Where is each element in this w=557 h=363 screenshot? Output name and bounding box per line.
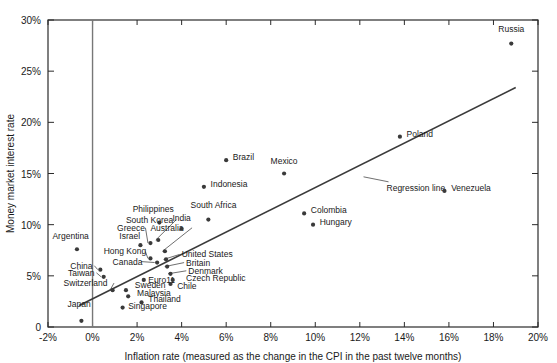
point-label-indonesia: Indonesia	[211, 179, 248, 189]
scatter-chart: -2%0%2%4%6%8%10%12%14%16%18%20%05%10%15%…	[0, 0, 557, 363]
x-tick-label-1: 0%	[85, 332, 100, 343]
point-label-hong-kong: Hong Kong	[104, 246, 147, 256]
y-axis-title: Money market interest rate	[5, 114, 16, 233]
x-tick-label-11: 20%	[528, 332, 548, 343]
data-point-australia[interactable]	[163, 249, 167, 253]
data-point-hungary[interactable]	[311, 223, 315, 227]
regression-line	[79, 88, 516, 306]
point-label-taiwan: Taiwan	[68, 268, 95, 278]
data-point-china[interactable]	[98, 268, 102, 272]
point-label-australia: Australia	[150, 223, 183, 233]
leader-canada	[141, 262, 155, 263]
data-point-russia[interactable]	[509, 41, 513, 45]
point-label-south-africa: South Africa	[191, 200, 237, 210]
x-tick-label-2: 2%	[130, 332, 145, 343]
point-label-switzerland: Switzerland	[64, 278, 108, 288]
x-axis-title: Inflation rate (measured as the change i…	[125, 351, 462, 362]
x-tick-label-4: 6%	[219, 332, 234, 343]
data-point-canada[interactable]	[155, 260, 159, 264]
y-tick-label-1: 5%	[27, 271, 42, 282]
data-point-hong-kong[interactable]	[148, 256, 152, 260]
data-point-colombia[interactable]	[302, 211, 306, 215]
data-point-singapore[interactable]	[121, 305, 125, 309]
x-tick-label-0: -2%	[39, 332, 57, 343]
x-tick-label-10: 18%	[483, 332, 503, 343]
data-point-poland[interactable]	[398, 135, 402, 139]
data-point-japan[interactable]	[79, 319, 83, 323]
x-tick-label-9: 16%	[439, 332, 459, 343]
data-point-venezuela[interactable]	[442, 189, 446, 193]
point-label-russia: Russia	[498, 24, 524, 34]
x-tick-label-7: 12%	[350, 332, 370, 343]
data-point-south-korea[interactable]	[156, 238, 160, 242]
data-point-czech-republic[interactable]	[171, 278, 175, 282]
point-label-argentina: Argentina	[52, 231, 89, 241]
point-label-canada: Canada	[113, 257, 143, 267]
data-point-mexico[interactable]	[282, 171, 286, 175]
x-tick-label-6: 10%	[305, 332, 325, 343]
leader-china	[94, 266, 98, 270]
data-point-india[interactable]	[180, 227, 184, 231]
data-point-israel[interactable]	[138, 243, 142, 247]
data-point-philippines[interactable]	[157, 221, 161, 225]
chart-canvas: -2%0%2%4%6%8%10%12%14%16%18%20%05%10%15%…	[0, 0, 557, 363]
x-tick-label-8: 14%	[394, 332, 414, 343]
point-label-poland: Poland	[407, 129, 434, 139]
data-point-united-states[interactable]	[164, 257, 168, 261]
annotation-leader-0	[364, 177, 389, 182]
point-label-india: India	[172, 213, 191, 223]
point-label-colombia: Colombia	[311, 205, 347, 215]
data-point-malaysia[interactable]	[126, 294, 130, 298]
y-tick-label-4: 20%	[21, 117, 41, 128]
y-tick-label-5: 25%	[21, 66, 41, 77]
data-point-south-africa[interactable]	[206, 217, 210, 221]
x-tick-label-5: 8%	[264, 332, 279, 343]
data-point-switzerland[interactable]	[110, 288, 114, 292]
annotation-regression-line: Regression line	[387, 183, 446, 193]
point-label-hungary: Hungary	[320, 217, 353, 227]
y-tick-label-6: 30%	[21, 15, 41, 26]
y-tick-label-0: 0	[35, 322, 41, 333]
point-label-japan: Japan	[68, 299, 91, 309]
point-label-singapore: Singapore	[128, 301, 167, 311]
point-label-venezuela: Venezuela	[451, 183, 491, 193]
data-point-sweden[interactable]	[124, 288, 128, 292]
plot-frame	[48, 20, 538, 327]
point-label-brazil: Brazil	[233, 152, 254, 162]
x-tick-label-3: 4%	[174, 332, 189, 343]
data-point-brazil[interactable]	[224, 158, 228, 162]
y-tick-label-2: 10%	[21, 220, 41, 231]
point-label-philippines: Philippines	[133, 204, 174, 214]
data-point-britain[interactable]	[165, 265, 169, 269]
data-point-argentina[interactable]	[75, 247, 79, 251]
leader-taiwan	[96, 273, 101, 277]
data-point-chile[interactable]	[168, 282, 172, 286]
data-point-indonesia[interactable]	[202, 185, 206, 189]
y-tick-label-3: 15%	[21, 169, 41, 180]
leader-greece	[145, 228, 148, 243]
point-label-chile: Chile	[177, 281, 197, 291]
data-point-greece[interactable]	[148, 241, 152, 245]
point-label-mexico: Mexico	[271, 156, 298, 166]
